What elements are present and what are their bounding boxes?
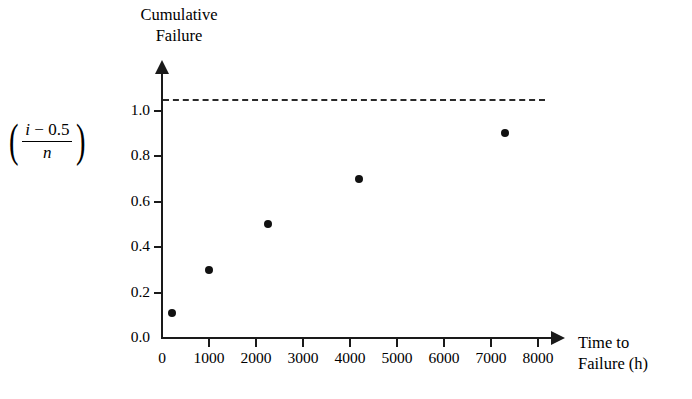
- x-axis-line: [161, 337, 553, 339]
- x-tick-mark: [255, 339, 257, 347]
- y-tick-mark: [154, 292, 162, 294]
- fraction: i − 0.5 n: [22, 120, 72, 163]
- y-tick-mark: [154, 201, 162, 203]
- fraction-denominator: n: [40, 142, 55, 163]
- left-parenthesis: (: [9, 118, 19, 164]
- x-tick-mark: [537, 339, 539, 347]
- y-tick-label: 0.4: [110, 237, 150, 255]
- x-axis-arrow-icon: [551, 331, 565, 345]
- y-tick-mark: [154, 110, 162, 112]
- data-point: [264, 220, 272, 228]
- y-axis-title: Cumulative Failure: [104, 4, 254, 46]
- x-tick-mark: [490, 339, 492, 347]
- chart-container: Cumulative Failure ( i − 0.5 n ) 0.00.20…: [0, 0, 692, 399]
- reference-line: [163, 99, 545, 101]
- y-tick-label: 0.2: [110, 283, 150, 301]
- y-tick-mark: [154, 246, 162, 248]
- x-tick-label: 8000: [508, 349, 568, 367]
- x-tick-mark: [208, 339, 210, 347]
- y-tick-label: 0.0: [110, 328, 150, 346]
- y-tick-label: 0.6: [110, 192, 150, 210]
- data-point: [205, 266, 213, 274]
- data-point: [501, 129, 509, 137]
- right-parenthesis: ): [76, 118, 86, 164]
- data-point: [355, 175, 363, 183]
- data-point: [168, 309, 176, 317]
- x-tick-mark: [302, 339, 304, 347]
- y-axis-line: [161, 72, 163, 339]
- x-tick-mark: [396, 339, 398, 347]
- fraction-numerator: i − 0.5: [22, 120, 72, 141]
- y-axis-arrow-icon: [155, 60, 169, 74]
- y-tick-label: 1.0: [110, 101, 150, 119]
- x-tick-mark: [443, 339, 445, 347]
- y-axis-formula-label: ( i − 0.5 n ): [6, 118, 89, 164]
- numerator-rest: − 0.5: [30, 120, 69, 139]
- y-tick-label: 0.8: [110, 146, 150, 164]
- y-tick-mark: [154, 155, 162, 157]
- x-axis-title: Time to Failure (h): [578, 332, 688, 374]
- x-tick-mark: [349, 339, 351, 347]
